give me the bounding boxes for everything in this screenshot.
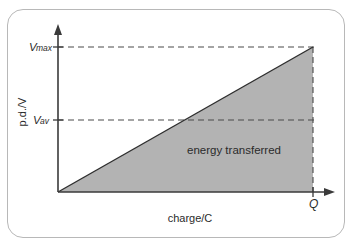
figure-root: V max V av Q p.d./V charge/C energy tran… [0,0,354,246]
chart-canvas: V max V av Q p.d./V charge/C energy tran… [0,0,354,246]
x-axis-arrow-icon [324,188,335,196]
x-axis-label: charge/C [168,212,213,224]
vav-tick-label-subscript: av [40,116,50,126]
energy-transferred-label: energy transferred [187,144,281,156]
q-tick-label: Q [309,197,318,211]
y-axis-arrow-icon [54,24,62,35]
y-axis-label: p.d./V [16,97,28,126]
vmax-tick-label-subscript: max [36,43,53,53]
